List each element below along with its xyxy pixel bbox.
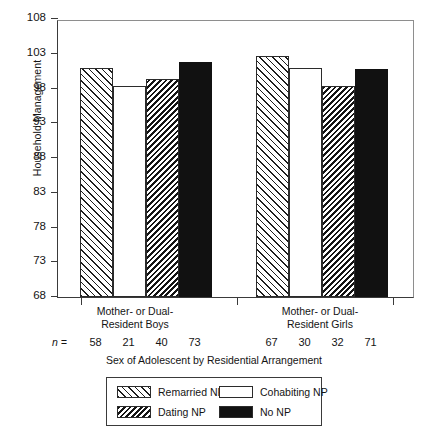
y-axis-tick: 93 bbox=[51, 122, 58, 123]
y-axis-tick: 78 bbox=[51, 227, 58, 228]
n-value: 21 bbox=[114, 336, 144, 348]
x-axis-tick-right bbox=[393, 297, 394, 305]
y-axis-tick-label: 93 bbox=[33, 115, 46, 127]
white-swatch-icon bbox=[219, 386, 253, 398]
y-axis-tick-label: 103 bbox=[27, 46, 46, 58]
group-label-boys-line1: Mother- or Dual- bbox=[70, 305, 200, 318]
y-axis-tick-label: 73 bbox=[33, 254, 46, 266]
y-axis-tick-label: 83 bbox=[33, 185, 46, 197]
legend-label-dating: Dating NP bbox=[158, 406, 206, 418]
bar-chart-figure: Household Management 6873788388939810310… bbox=[0, 0, 428, 439]
legend-label-cohabiting: Cohabiting NP bbox=[260, 386, 328, 398]
x-axis-tick-left bbox=[81, 297, 82, 305]
n-value: 58 bbox=[81, 336, 111, 348]
bar-dating-np-boys bbox=[146, 79, 179, 297]
legend-label-nonp: No NP bbox=[260, 406, 291, 418]
bar-remarried-np-boys bbox=[80, 68, 113, 297]
legend-item-nonp: No NP bbox=[219, 406, 291, 418]
group-label-boys: Mother- or Dual- Resident Boys bbox=[70, 305, 200, 331]
plot-area: 68737883889398103108 bbox=[57, 20, 414, 298]
n-row-label: n = bbox=[52, 336, 67, 348]
n-value: 30 bbox=[290, 336, 320, 348]
n-value: 40 bbox=[147, 336, 177, 348]
y-axis-tick: 108 bbox=[51, 18, 58, 19]
legend-label-remarried: Remarried NP bbox=[158, 386, 225, 398]
y-axis-tick-label: 68 bbox=[33, 289, 46, 301]
bar-no-np-boys bbox=[179, 62, 212, 297]
diagonal-hatch-up-swatch-icon bbox=[117, 386, 151, 398]
x-axis-title: Sex of Adolescent by Residential Arrange… bbox=[0, 354, 428, 366]
bar-cohabiting-np-girls bbox=[289, 68, 322, 297]
group-label-girls-line1: Mother- or Dual- bbox=[255, 305, 385, 318]
y-axis-tick-label: 88 bbox=[33, 150, 46, 162]
y-axis-tick: 98 bbox=[51, 88, 58, 89]
y-axis-tick: 103 bbox=[51, 53, 58, 54]
group-label-girls: Mother- or Dual- Resident Girls bbox=[255, 305, 385, 331]
legend-item-dating: Dating NP bbox=[117, 406, 206, 418]
y-axis-tick: 83 bbox=[51, 192, 58, 193]
y-axis-tick-label: 108 bbox=[27, 11, 46, 23]
n-value: 71 bbox=[356, 336, 386, 348]
n-value: 32 bbox=[323, 336, 353, 348]
legend-item-cohabiting: Cohabiting NP bbox=[219, 386, 328, 398]
legend: Remarried NP Cohabiting NP Dating NP No … bbox=[106, 377, 322, 426]
y-axis-tick-label: 78 bbox=[33, 220, 46, 232]
y-axis-tick: 73 bbox=[51, 261, 58, 262]
dense-hatch-down-swatch-icon bbox=[117, 406, 151, 418]
bar-cohabiting-np-boys bbox=[113, 86, 146, 297]
group-label-boys-line2: Resident Boys bbox=[70, 318, 200, 331]
bar-no-np-girls bbox=[355, 69, 388, 297]
group-label-girls-line2: Resident Girls bbox=[255, 318, 385, 331]
n-value: 73 bbox=[180, 336, 210, 348]
bar-dating-np-girls bbox=[322, 86, 355, 297]
black-swatch-icon bbox=[219, 406, 253, 418]
bar-remarried-np-girls bbox=[256, 56, 289, 297]
y-axis-tick-label: 98 bbox=[33, 81, 46, 93]
n-value: 67 bbox=[257, 336, 287, 348]
y-axis-tick: 68 bbox=[51, 296, 58, 297]
legend-item-remarried: Remarried NP bbox=[117, 386, 225, 398]
x-axis-tick-center bbox=[237, 297, 238, 305]
y-axis-tick: 88 bbox=[51, 157, 58, 158]
